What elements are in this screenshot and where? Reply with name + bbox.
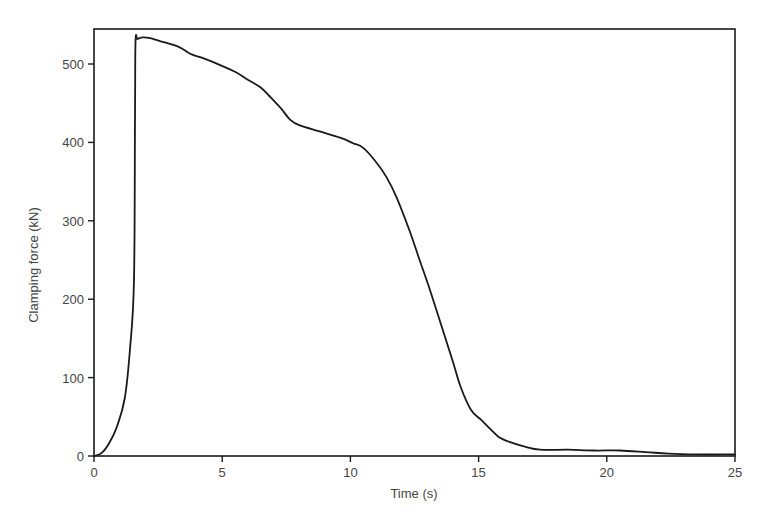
x-axis-ticks: 0510152025	[90, 456, 742, 480]
y-tick-label: 500	[62, 57, 84, 72]
y-axis-title: Clamping force (kN)	[26, 207, 41, 323]
x-tick-label: 10	[343, 465, 357, 480]
chart: 0510152025 0100200300400500 Time (s) Cla…	[0, 0, 764, 521]
y-axis-ticks: 0100200300400500	[62, 57, 94, 464]
x-tick-label: 25	[728, 465, 742, 480]
y-tick-label: 300	[62, 214, 84, 229]
y-tick-label: 0	[77, 449, 84, 464]
y-tick-label: 100	[62, 371, 84, 386]
x-tick-label: 20	[600, 465, 614, 480]
clamping-force-line	[94, 35, 735, 456]
x-tick-label: 15	[471, 465, 485, 480]
y-tick-label: 200	[62, 292, 84, 307]
x-axis-title: Time (s)	[390, 486, 437, 501]
figure-caption	[20, 512, 740, 521]
x-tick-label: 5	[219, 465, 226, 480]
y-tick-label: 400	[62, 135, 84, 150]
x-tick-label: 0	[90, 465, 97, 480]
